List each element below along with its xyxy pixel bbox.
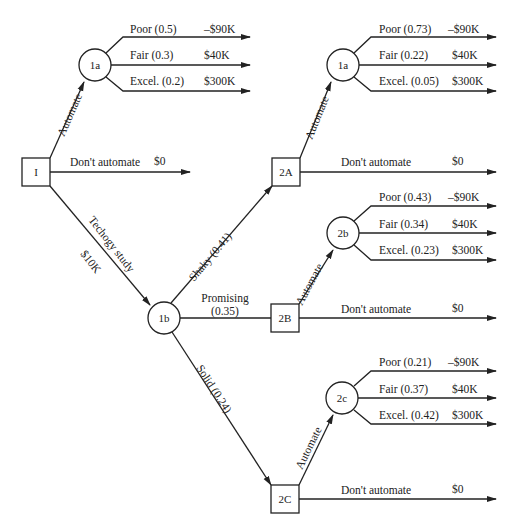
- outcome-value: –$90K: [447, 191, 480, 203]
- outcome-fair: Fair (0.37): [379, 383, 428, 396]
- node-label: 2c: [337, 392, 348, 404]
- decision-tree-diagram: Automate Don't automate $0 Techogy study…: [0, 0, 516, 527]
- edge-label-promising: Promising: [201, 292, 249, 305]
- edge-label-dont-automate: Don't automate: [70, 156, 140, 168]
- edge-label-automate: Automate: [55, 91, 84, 137]
- outcome-excellent: Excel. (0.05): [379, 75, 439, 88]
- edge-value: $0: [452, 155, 464, 167]
- outcome-value: $40K: [452, 218, 478, 230]
- branch-solid: Solid (0.24): [172, 332, 271, 485]
- outcomes-shaky: Poor (0.73) –$90K Fair (0.22) $40K Excel…: [354, 23, 496, 91]
- outcome-value: –$90K: [447, 23, 480, 35]
- branch-2b-dont-automate: Don't automate $0: [299, 302, 496, 318]
- outcome-fair: Fair (0.3): [130, 49, 174, 62]
- node-label: 1a: [90, 59, 101, 71]
- edge-label-automate: Automate: [303, 94, 331, 141]
- outcome-value: –$90K: [447, 356, 480, 368]
- branch-shaky: Shaky (0.41): [171, 186, 272, 303]
- outcome-fair: Fair (0.22): [379, 49, 428, 62]
- outcome-excellent: Excel. (0.2): [130, 75, 184, 88]
- branch-2a-dont-automate: Don't automate $0: [300, 155, 496, 172]
- node-label: 1b: [159, 312, 171, 324]
- branch-technology-study: Techogy study $10K: [50, 186, 150, 305]
- outcomes-solid: Poor (0.21) –$90K Fair (0.37) $40K Excel…: [354, 356, 496, 424]
- outcome-excellent: Excel. (0.42): [379, 409, 439, 422]
- outcome-value: $300K: [204, 75, 236, 87]
- edge-label-dont-automate: Don't automate: [341, 303, 411, 315]
- node-label: 2C: [279, 493, 292, 505]
- edge-value: $0: [154, 155, 166, 167]
- outcome-excellent: Excel. (0.23): [379, 244, 439, 257]
- outcome-value: –$90K: [203, 23, 236, 35]
- edge-label-automate: Automate: [293, 261, 325, 307]
- outcome-poor: Poor (0.73): [379, 23, 432, 36]
- node-label: 2b: [338, 227, 350, 239]
- branch-promising: Promising (0.35): [180, 292, 271, 318]
- edge-value: $0: [452, 302, 464, 314]
- node-label: I: [34, 166, 38, 178]
- branch-i-dont-automate: Don't automate $0: [50, 155, 190, 172]
- edge-label-dont-automate: Don't automate: [341, 484, 411, 496]
- branch-2b-automate: Automate: [293, 250, 333, 307]
- edge-label-solid: Solid (0.24): [193, 363, 234, 416]
- edge-cost: $10K: [78, 248, 104, 276]
- outcome-poor: Poor (0.43): [379, 191, 432, 204]
- outcome-fair: Fair (0.34): [379, 218, 428, 231]
- outcome-value: $300K: [452, 244, 484, 256]
- outcome-value: $40K: [452, 49, 478, 61]
- edge-label-dont-automate: Don't automate: [341, 156, 411, 168]
- outcome-value: $300K: [452, 75, 484, 87]
- branch-i-automate: Automate: [50, 82, 84, 158]
- node-label: 2B: [279, 312, 292, 324]
- outcome-poor: Poor (0.21): [379, 356, 432, 369]
- outcome-poor: Poor (0.5): [130, 23, 177, 36]
- outcome-value: $40K: [452, 383, 478, 395]
- outcomes-promising: Poor (0.43) –$90K Fair (0.34) $40K Excel…: [354, 191, 496, 260]
- branch-2c-automate: Automate: [293, 415, 333, 485]
- outcome-value: $40K: [204, 49, 230, 61]
- edge-label-shaky: Shaky (0.41): [186, 230, 234, 284]
- outcome-value: $300K: [452, 409, 484, 421]
- edge-label-promising-prob: (0.35): [211, 305, 239, 318]
- node-label: 1a: [338, 59, 349, 71]
- node-label: 2A: [279, 166, 293, 178]
- outcomes-top: Poor (0.5) –$90K Fair (0.3) $40K Excel. …: [106, 23, 250, 91]
- branch-2c-dont-automate: Don't automate $0: [299, 483, 496, 499]
- branch-2a-automate: Automate: [300, 82, 331, 158]
- edge-label-automate: Automate: [293, 425, 324, 471]
- edge-value: $0: [452, 483, 464, 495]
